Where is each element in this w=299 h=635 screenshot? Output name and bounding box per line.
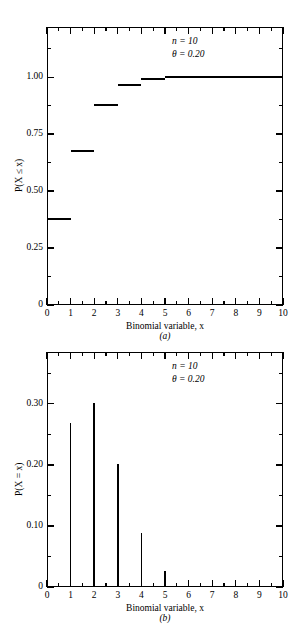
x-tick xyxy=(164,27,165,34)
x-tick xyxy=(235,580,236,587)
x-tick-label: 3 xyxy=(115,591,120,601)
y-tick xyxy=(47,586,54,587)
y-tick-label: 0.25 xyxy=(5,243,43,253)
x-tick xyxy=(212,580,213,587)
x-tick xyxy=(200,27,201,31)
x-tick xyxy=(58,27,59,31)
x-tick xyxy=(235,352,236,359)
x-tick-label: 5 xyxy=(163,309,168,319)
x-tick xyxy=(223,27,224,31)
y-tick xyxy=(276,247,283,248)
y-tick xyxy=(47,495,51,496)
y-tick xyxy=(279,276,283,277)
y-tick xyxy=(47,434,51,435)
x-tick xyxy=(188,27,189,34)
x-tick xyxy=(271,301,272,305)
x-tick xyxy=(259,298,260,305)
x-tick xyxy=(94,27,95,34)
x-tick xyxy=(82,301,83,305)
y-tick xyxy=(279,105,283,106)
x-tick-label: 10 xyxy=(278,309,288,319)
y-tick xyxy=(279,556,283,557)
y-tick xyxy=(279,495,283,496)
x-tick-label: 10 xyxy=(278,591,288,601)
y-tick xyxy=(47,77,54,78)
x-tick xyxy=(247,27,248,31)
x-tick-label: 5 xyxy=(163,591,168,601)
x-tick xyxy=(200,301,201,305)
x-tick xyxy=(223,583,224,587)
y-tick xyxy=(276,586,283,587)
x-tick xyxy=(105,583,106,587)
y-tick xyxy=(47,556,51,557)
x-tick xyxy=(105,352,106,356)
x-tick-label: 3 xyxy=(115,309,120,319)
x-tick xyxy=(235,298,236,305)
y-tick xyxy=(47,105,51,106)
annotation-n-b: n = 10 xyxy=(172,361,197,371)
y-tick xyxy=(47,464,54,465)
x-tick xyxy=(259,352,260,359)
x-tick xyxy=(247,583,248,587)
y-tick xyxy=(47,133,54,134)
x-tick xyxy=(200,352,201,356)
x-tick-label: 2 xyxy=(92,591,97,601)
x-tick-label: 8 xyxy=(233,591,238,601)
x-tick xyxy=(271,27,272,31)
y-tick-label: 0 xyxy=(5,582,43,592)
y-tick-label: 1.00 xyxy=(5,72,43,82)
x-tick xyxy=(188,298,189,305)
pmf-spike xyxy=(164,571,166,587)
x-tick-label: 4 xyxy=(139,309,144,319)
x-tick xyxy=(117,27,118,34)
pmf-spike xyxy=(117,464,119,587)
x-tick xyxy=(271,352,272,356)
x-tick xyxy=(223,301,224,305)
y-tick xyxy=(47,162,51,163)
x-tick-label: 1 xyxy=(68,591,73,601)
pmf-spike xyxy=(141,533,143,587)
x-tick xyxy=(117,298,118,305)
cdf-step-segment xyxy=(71,150,95,152)
x-tick xyxy=(129,27,130,31)
x-tick-label: 2 xyxy=(92,309,97,319)
y-tick-label: 0 xyxy=(5,300,43,310)
x-tick xyxy=(46,352,47,359)
y-tick xyxy=(47,373,51,374)
cdf-step-segment xyxy=(141,78,165,80)
x-tick xyxy=(58,301,59,305)
x-tick xyxy=(129,352,130,356)
y-tick-label: 0.50 xyxy=(5,186,43,196)
x-tick xyxy=(58,583,59,587)
x-tick xyxy=(70,27,71,34)
x-tick xyxy=(176,352,177,356)
x-tick xyxy=(164,352,165,359)
y-tick xyxy=(279,434,283,435)
y-axis-title-a: P(X ≤ x) xyxy=(14,159,24,192)
x-tick-label: 0 xyxy=(45,591,50,601)
x-tick xyxy=(235,27,236,34)
pmf-spike xyxy=(70,423,72,587)
x-tick xyxy=(282,352,283,359)
y-tick-label: 0.20 xyxy=(5,460,43,470)
y-tick xyxy=(47,48,51,49)
x-tick xyxy=(117,352,118,359)
x-tick xyxy=(188,352,189,359)
x-tick xyxy=(141,298,142,305)
x-tick-label: 7 xyxy=(210,591,215,601)
x-tick xyxy=(188,580,189,587)
x-tick xyxy=(58,352,59,356)
pmf-spike xyxy=(93,403,95,587)
x-tick xyxy=(259,580,260,587)
plot-frame-b xyxy=(47,352,283,587)
x-tick xyxy=(105,301,106,305)
y-tick xyxy=(276,190,283,191)
x-tick xyxy=(129,583,130,587)
x-tick xyxy=(82,583,83,587)
cdf-step-segment xyxy=(165,76,283,78)
x-tick xyxy=(153,27,154,31)
cdf-step-segment xyxy=(94,104,118,106)
x-tick-label: 0 xyxy=(45,309,50,319)
binomial-distribution-figure: 01234567891000.250.500.751.00 P(X ≤ x) n… xyxy=(0,0,299,635)
x-tick xyxy=(176,27,177,31)
